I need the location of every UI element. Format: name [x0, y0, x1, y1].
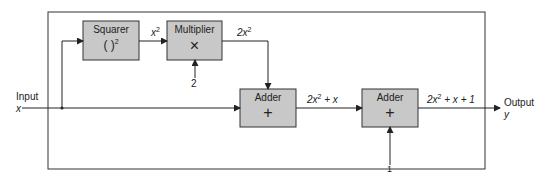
adder1-symbol: + [240, 104, 296, 122]
const-1-label: 1 [387, 164, 392, 174]
output-label: Output [504, 97, 534, 108]
adder2-symbol: + [362, 104, 418, 122]
const-2-label: 2 [191, 78, 197, 89]
adder1-output-label: 2x2 + x [307, 93, 338, 105]
block-diagram: Squarer ( )2 Multiplier × Adder + Adder … [0, 0, 553, 179]
adder1-title: Adder [240, 92, 296, 103]
adder2-output-label: 2x2 + x + 1 [427, 93, 475, 105]
mult-output-label: 2x2 [237, 26, 251, 38]
squarer-symbol: ( )2 [83, 38, 139, 52]
squarer-title: Squarer [83, 24, 139, 35]
input-var: x [16, 103, 21, 114]
x-squared-label: x2 [151, 26, 160, 38]
output-var: y [504, 109, 509, 120]
input-label: Input [16, 91, 38, 102]
adder2-title: Adder [362, 92, 418, 103]
multiplier-symbol: × [167, 37, 222, 55]
multiplier-title: Multiplier [167, 24, 222, 35]
